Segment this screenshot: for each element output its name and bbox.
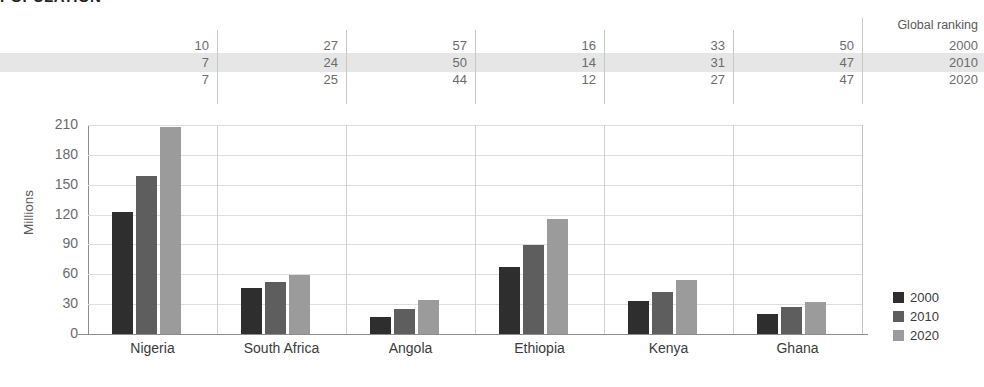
ranking-cell: 25 [217, 71, 338, 88]
legend-item[interactable]: 2010 [893, 307, 939, 324]
y-axis-tick-label: 0 [32, 325, 78, 341]
ranking-row-year: 2010 [918, 54, 978, 71]
y-axis-tick-label: 210 [32, 116, 78, 132]
ranking-table-header: Global ranking [897, 18, 978, 32]
bar [370, 317, 391, 334]
category-label: Angola [346, 340, 475, 356]
ranking-cell: 57 [346, 37, 467, 54]
legend-label: 2010 [910, 309, 939, 324]
ranking-cell: 47 [733, 54, 854, 71]
y-axis-tick-label: 120 [32, 206, 78, 222]
page-title: POPULATION [0, 0, 101, 5]
x-axis-line [78, 334, 868, 335]
ranking-cell: 47 [733, 71, 854, 88]
category-label: Nigeria [88, 340, 217, 356]
ranking-separator [346, 30, 347, 104]
ranking-cell: 14 [475, 54, 596, 71]
bar [805, 302, 826, 334]
y-axis-tick-label: 150 [32, 176, 78, 192]
global-ranking-table: Global ranking 1027571633502000724501431… [0, 18, 984, 104]
chart-container: POPULATION Global ranking 10275716335020… [0, 0, 984, 387]
bar [112, 212, 133, 334]
bar [676, 280, 697, 334]
y-axis-label: Millions [21, 173, 36, 253]
legend-label: 2020 [910, 328, 939, 343]
ranking-separator [475, 30, 476, 104]
bar [289, 275, 310, 334]
bar [160, 127, 181, 334]
legend-item[interactable]: 2000 [893, 288, 939, 305]
ranking-cell: 50 [733, 37, 854, 54]
ranking-separator [217, 30, 218, 104]
bar [394, 309, 415, 334]
ranking-cell: 24 [217, 54, 338, 71]
ranking-separator [604, 30, 605, 104]
bar [136, 176, 157, 334]
bar [652, 292, 673, 334]
bar [547, 219, 568, 334]
legend-label: 2000 [910, 290, 939, 305]
ranking-cell: 27 [217, 37, 338, 54]
ranking-cell: 50 [346, 54, 467, 71]
category-label: Ghana [733, 340, 862, 356]
bar [781, 307, 802, 334]
ranking-cell: 10 [88, 37, 209, 54]
y-axis-tick-label: 30 [32, 295, 78, 311]
category-separator [217, 125, 218, 334]
bar [241, 288, 262, 334]
category-separator [346, 125, 347, 334]
bar [418, 300, 439, 334]
ranking-separator [862, 18, 863, 104]
ranking-row-year: 2020 [918, 71, 978, 88]
bar [757, 314, 778, 334]
legend-swatch [893, 292, 904, 303]
category-label: Ethiopia [475, 340, 604, 356]
ranking-cell: 33 [604, 37, 725, 54]
ranking-cell: 7 [88, 71, 209, 88]
ranking-cell: 31 [604, 54, 725, 71]
ranking-row-year: 2000 [918, 37, 978, 54]
legend-swatch [893, 311, 904, 322]
bar [499, 267, 520, 334]
ranking-cell: 7 [88, 54, 209, 71]
y-axis-tick-label: 180 [32, 146, 78, 162]
category-separator [475, 125, 476, 334]
y-axis-tick-label: 60 [32, 265, 78, 281]
legend: 200020102020 [893, 288, 939, 345]
ranking-cell: 16 [475, 37, 596, 54]
bar [628, 301, 649, 334]
legend-swatch [893, 330, 904, 341]
category-label: South Africa [217, 340, 346, 356]
ranking-cell: 12 [475, 71, 596, 88]
category-separator [604, 125, 605, 334]
ranking-separator [733, 30, 734, 104]
ranking-cell: 27 [604, 71, 725, 88]
category-separator [733, 125, 734, 334]
bar [265, 282, 286, 334]
y-axis-tick-label: 90 [32, 235, 78, 251]
category-label: Kenya [604, 340, 733, 356]
plot-right-edge [862, 125, 863, 334]
bar [523, 245, 544, 334]
ranking-cell: 44 [346, 71, 467, 88]
legend-item[interactable]: 2020 [893, 326, 939, 343]
